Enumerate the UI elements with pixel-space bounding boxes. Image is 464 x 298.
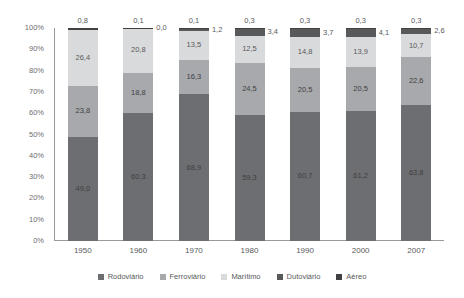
bar-segment[interactable]: 20,8 (123, 28, 153, 72)
legend-item[interactable]: Marítimo (221, 272, 260, 281)
aereo-value-label: 0,3 (300, 17, 310, 25)
bar-stack: 60,318,820,80,10,0 (123, 28, 153, 241)
bar-segment[interactable] (290, 29, 320, 37)
dutoviario-value-label: 1,2 (212, 26, 222, 34)
stacked-bar-chart: 0%10%20%30%40%50%60%70%80%90%100% 49,023… (0, 0, 464, 298)
legend-swatch-icon (336, 274, 342, 280)
bar-segment[interactable]: 23,8 (68, 86, 98, 137)
dutoviario-value-label: 0,0 (156, 24, 166, 32)
bar-stack: 60,720,514,80,33,7 (290, 28, 320, 241)
bar-segment[interactable]: 13,5 (179, 31, 209, 60)
bar-segment[interactable] (401, 29, 431, 35)
bar-segment-label: 60,3 (131, 173, 146, 181)
dutoviario-value-label: 2,6 (434, 27, 444, 35)
x-axis-labels: 1950196019701980199020002007 (55, 246, 444, 260)
bar-segment[interactable]: 59,3 (235, 115, 265, 241)
y-axis-tick: 10% (29, 216, 44, 224)
bar-segment[interactable]: 20,5 (290, 68, 320, 112)
bar-segment-label: 59,3 (242, 174, 257, 182)
legend-label: Ferroviário (170, 272, 206, 281)
x-axis-tick: 1960 (118, 246, 158, 256)
aereo-value-label: 0,3 (244, 17, 254, 25)
legend-item[interactable]: Rodoviário (98, 272, 144, 281)
x-axis-tick: 2000 (341, 246, 381, 256)
legend-label: Aéreo (346, 272, 366, 281)
bar-segment-label: 20,5 (353, 85, 368, 93)
bar-segment[interactable]: 61,2 (346, 111, 376, 241)
bar-segment-label: 16,3 (187, 73, 202, 81)
legend-item[interactable]: Dutoviário (277, 272, 321, 281)
bar-segment[interactable]: 24,5 (235, 63, 265, 115)
bar-segment-label: 63,8 (409, 169, 424, 177)
bar-segment[interactable]: 68,9 (179, 94, 209, 241)
plot-area: 49,023,826,40,860,318,820,80,10,068,916,… (55, 28, 444, 241)
y-axis-labels: 0%10%20%30%40%50%60%70%80%90%100% (0, 28, 50, 241)
x-axis-tick: 1980 (230, 246, 270, 256)
bar-segment-label: 23,8 (75, 107, 90, 115)
bar-group: 60,318,820,80,10,0 (123, 28, 153, 241)
y-axis-tick: 80% (29, 67, 44, 75)
x-axis-tick: 1970 (174, 246, 214, 256)
bar-segment-label: 61,2 (353, 172, 368, 180)
bar-stack: 61,220,513,90,34,1 (346, 28, 376, 241)
bar-group: 61,220,513,90,34,1 (346, 28, 376, 241)
bar-stack: 49,023,826,40,8 (68, 28, 98, 241)
bar-segment[interactable]: 12,5 (235, 36, 265, 63)
bar-segment[interactable]: 60,3 (123, 113, 153, 241)
bar-stack: 59,324,512,50,33,4 (235, 28, 265, 241)
bar-segment[interactable] (179, 28, 209, 31)
bar-group: 68,916,313,50,11,2 (179, 28, 209, 241)
aereo-value-label: 0,3 (355, 17, 365, 25)
bar-segment[interactable]: 26,4 (68, 30, 98, 86)
bar-segment-label: 26,4 (75, 54, 90, 62)
bar-group: 63,822,610,70,32,6 (401, 28, 431, 241)
bar-segment[interactable] (346, 29, 376, 38)
y-axis-tick: 20% (29, 194, 44, 202)
y-axis-tick: 60% (29, 109, 44, 117)
bar-segment-label: 68,9 (187, 164, 202, 172)
legend-label: Marítimo (231, 272, 260, 281)
bar-segment[interactable]: 18,8 (123, 73, 153, 113)
bar-segment[interactable] (346, 28, 376, 29)
aereo-value-label: 0,3 (411, 17, 421, 25)
y-axis-tick: 100% (25, 24, 44, 32)
bar-segment-label: 13,5 (187, 41, 202, 49)
bar-segment[interactable]: 13,9 (346, 37, 376, 67)
bar-segment[interactable]: 20,5 (346, 67, 376, 111)
x-axis-tick: 2007 (396, 246, 436, 256)
aereo-value-label: 0,1 (133, 17, 143, 25)
bar-segment[interactable]: 16,3 (179, 60, 209, 95)
bar-segment[interactable] (235, 29, 265, 36)
legend-item[interactable]: Ferroviário (160, 272, 206, 281)
bar-segment[interactable]: 10,7 (401, 34, 431, 57)
aereo-value-label: 0,1 (189, 17, 199, 25)
bar-segment-label: 20,8 (131, 46, 146, 54)
bar-group: 59,324,512,50,33,4 (235, 28, 265, 241)
x-axis-tick: 1990 (285, 246, 325, 256)
bar-segment-label: 10,7 (409, 42, 424, 50)
y-axis-tick: 40% (29, 152, 44, 160)
bar-segment[interactable]: 49,0 (68, 137, 98, 241)
bar-segment-label: 60,7 (298, 172, 313, 180)
dutoviario-value-label: 3,7 (323, 29, 333, 37)
bar-segment[interactable]: 14,8 (290, 37, 320, 69)
bar-segment[interactable] (401, 28, 431, 29)
y-axis-tick: 90% (29, 45, 44, 53)
bar-segment-label: 13,9 (353, 48, 368, 56)
aereo-value-label: 0,8 (78, 17, 88, 25)
legend-item[interactable]: Aéreo (336, 272, 366, 281)
legend-swatch-icon (277, 274, 283, 280)
bar-segment[interactable] (235, 28, 265, 29)
legend-label: Dutoviário (287, 272, 321, 281)
bar-segment[interactable] (290, 28, 320, 29)
bar-segment[interactable]: 22,6 (401, 57, 431, 105)
y-axis-tick: 70% (29, 88, 44, 96)
dutoviario-value-label: 4,1 (379, 29, 389, 37)
bar-segment[interactable] (68, 28, 98, 30)
bar-segment-label: 12,5 (242, 45, 257, 53)
legend-swatch-icon (98, 274, 104, 280)
bar-segment-label: 24,5 (242, 85, 257, 93)
bar-segment[interactable]: 63,8 (401, 105, 431, 241)
y-axis-tick: 30% (29, 173, 44, 181)
bar-segment[interactable]: 60,7 (290, 112, 320, 241)
